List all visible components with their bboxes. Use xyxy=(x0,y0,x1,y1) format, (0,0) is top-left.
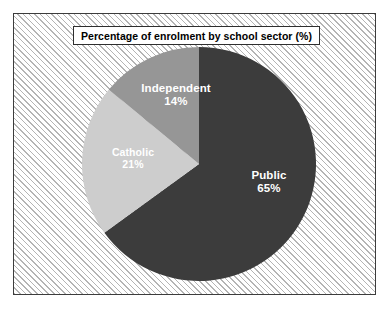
pie-chart-figure: Independent 14% Catholic 21% Public 65% … xyxy=(0,0,391,311)
chart-title: Percentage of enrolment by school sector… xyxy=(81,30,312,42)
pie-graphic xyxy=(82,47,316,281)
pie-svg xyxy=(82,47,316,281)
chart-title-box: Percentage of enrolment by school sector… xyxy=(73,26,320,45)
chart-plot-panel: Independent 14% Catholic 21% Public 65% … xyxy=(13,13,376,295)
